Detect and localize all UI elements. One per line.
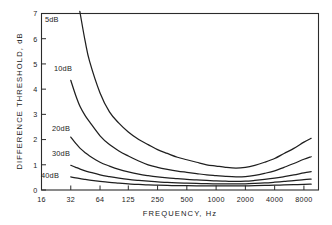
- curve-label-10dB: 10dB: [54, 64, 72, 73]
- x-axis-tick-labels: 1632641252505001000200040008000: [37, 195, 312, 204]
- curve-group: [71, 11, 311, 186]
- curve-20dB: [71, 137, 311, 181]
- x-tick-label-125: 125: [122, 195, 135, 204]
- y-axis-tick-labels: 01234567: [33, 9, 37, 195]
- y-tick-label-3: 3: [33, 110, 37, 119]
- x-tick-label-250: 250: [151, 195, 164, 204]
- x-tick-label-1000: 1000: [208, 195, 225, 204]
- chart-canvas: 1632641252505001000200040008000 01234567…: [0, 0, 332, 225]
- x-tick-label-500: 500: [180, 195, 193, 204]
- y-tick-label-7: 7: [33, 9, 37, 18]
- x-tick-label-32: 32: [66, 195, 75, 204]
- curve-30dB: [71, 165, 311, 184]
- x-axis-ticks: [42, 186, 304, 191]
- x-tick-label-2000: 2000: [237, 195, 254, 204]
- curve-label-30dB: 30dB: [52, 149, 70, 158]
- curve-label-5dB: 5dB: [45, 15, 59, 24]
- x-tick-label-8000: 8000: [295, 195, 312, 204]
- curve-label-40dB: 40dB: [41, 171, 59, 180]
- curve-10dB: [71, 80, 311, 177]
- x-tick-label-64: 64: [96, 195, 105, 204]
- y-tick-label-5: 5: [33, 60, 37, 69]
- curve-label-20dB: 20dB: [52, 124, 70, 133]
- y-tick-label-2: 2: [33, 135, 37, 144]
- curve-labels: 5dB10dB20dB30dB40dB: [41, 15, 72, 180]
- y-tick-label-1: 1: [33, 161, 37, 170]
- axis-frame: [42, 14, 319, 191]
- y-tick-label-4: 4: [33, 85, 37, 94]
- x-axis-title: FREQUENCY, Hz: [143, 209, 218, 218]
- y-tick-label-0: 0: [33, 186, 37, 195]
- y-axis-title: DIFFERENCE THRESHOLD, dB: [15, 32, 24, 169]
- curve-5dB: [80, 11, 311, 168]
- x-tick-label-16: 16: [37, 195, 46, 204]
- x-tick-label-4000: 4000: [266, 195, 283, 204]
- y-axis-ticks: [42, 14, 47, 191]
- y-tick-label-6: 6: [33, 35, 37, 44]
- difference-threshold-chart: 1632641252505001000200040008000 01234567…: [0, 0, 332, 225]
